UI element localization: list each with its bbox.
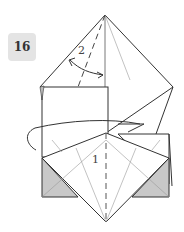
step-label-2: 2 (78, 44, 85, 57)
step-label-1: 1 (92, 153, 99, 166)
origami-diagram: 2 1 (0, 0, 184, 232)
